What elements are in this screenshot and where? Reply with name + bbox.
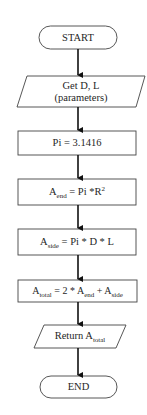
input-label-line2: (parameters) — [22, 92, 140, 104]
atotal-sub2: end — [84, 291, 94, 299]
return-sub: total — [93, 336, 105, 344]
pi-label: Pi = 3.1416 — [18, 137, 136, 149]
input-label-line1: Get D, L — [22, 80, 140, 92]
atotal-sub3: side — [112, 291, 123, 299]
aside-expr: = Pi * D * L — [59, 236, 114, 247]
aend-sub: end — [57, 192, 67, 200]
start-label: START — [39, 32, 117, 44]
aend-var: A — [49, 186, 57, 197]
aend-expr: = Pi *R — [67, 186, 102, 197]
atotal-expr1: = 2 * A — [52, 285, 84, 296]
flowchart-canvas — [0, 0, 147, 415]
aend-sup: 2 — [102, 185, 106, 193]
input-label: Get D, L (parameters) — [22, 80, 140, 104]
atotal-sub: total — [39, 291, 51, 299]
return-prefix: Return A — [55, 330, 93, 341]
atotal-label: Atotal = 2 * Aend + Aside — [18, 285, 137, 297]
end-label: END — [40, 381, 117, 393]
aend-label: Aend = Pi *R2 — [18, 186, 136, 198]
atotal-expr2: + A — [94, 285, 111, 296]
return-label: Return Atotal — [34, 330, 126, 342]
aside-var: A — [40, 236, 48, 247]
aside-sub: side — [48, 242, 59, 250]
aside-label: Aside = Pi * D * L — [18, 236, 136, 248]
